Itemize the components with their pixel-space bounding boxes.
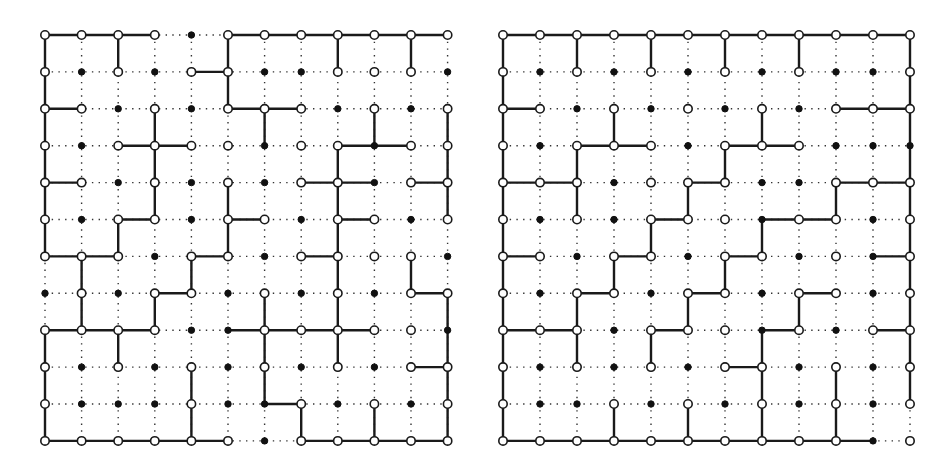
open-node-icon <box>370 68 378 76</box>
open-node-icon <box>224 68 232 76</box>
open-node-icon <box>370 400 378 408</box>
open-node-icon <box>77 437 85 445</box>
open-node-icon <box>260 105 268 113</box>
open-node-icon <box>187 289 195 297</box>
open-node-icon <box>536 326 544 334</box>
open-node-icon <box>114 437 122 445</box>
filled-node-icon <box>907 143 913 149</box>
filled-node-icon <box>152 364 158 370</box>
open-node-icon <box>721 215 729 223</box>
open-node-icon <box>187 142 195 150</box>
open-node-icon <box>41 215 49 223</box>
open-node-icon <box>77 252 85 260</box>
filled-node-icon <box>261 179 267 185</box>
open-node-icon <box>260 31 268 39</box>
filled-node-icon <box>115 290 121 296</box>
filled-node-icon <box>648 401 654 407</box>
filled-node-icon <box>225 364 231 370</box>
open-node-icon <box>906 105 914 113</box>
open-node-icon <box>224 252 232 260</box>
filled-node-icon <box>759 69 765 75</box>
open-node-icon <box>536 252 544 260</box>
open-node-icon <box>832 31 840 39</box>
open-node-icon <box>906 437 914 445</box>
open-node-icon <box>41 105 49 113</box>
open-node-icon <box>334 437 342 445</box>
filled-node-icon <box>574 401 580 407</box>
open-node-icon <box>573 31 581 39</box>
open-node-icon <box>41 326 49 334</box>
open-node-icon <box>77 178 85 186</box>
open-node-icon <box>443 437 451 445</box>
open-node-icon <box>260 215 268 223</box>
open-node-icon <box>407 178 415 186</box>
filled-node-icon <box>796 253 802 259</box>
open-node-icon <box>906 363 914 371</box>
open-node-icon <box>758 31 766 39</box>
filled-node-icon <box>261 253 267 259</box>
open-node-icon <box>684 437 692 445</box>
filled-node-icon <box>796 364 802 370</box>
open-node-icon <box>795 437 803 445</box>
open-node-icon <box>647 437 655 445</box>
open-node-icon <box>77 105 85 113</box>
open-node-icon <box>832 105 840 113</box>
filled-node-icon <box>611 364 617 370</box>
filled-node-icon <box>611 216 617 222</box>
filled-node-icon <box>833 327 839 333</box>
open-node-icon <box>758 437 766 445</box>
open-node-icon <box>407 142 415 150</box>
open-node-icon <box>536 437 544 445</box>
open-node-icon <box>41 437 49 445</box>
open-node-icon <box>758 142 766 150</box>
open-node-icon <box>41 363 49 371</box>
filled-node-icon <box>537 401 543 407</box>
open-node-icon <box>536 31 544 39</box>
open-node-icon <box>795 68 803 76</box>
filled-node-icon <box>115 106 121 112</box>
filled-node-icon <box>833 143 839 149</box>
filled-node-icon <box>537 143 543 149</box>
open-node-icon <box>77 289 85 297</box>
open-node-icon <box>721 363 729 371</box>
filled-node-icon <box>685 69 691 75</box>
open-node-icon <box>647 326 655 334</box>
open-node-icon <box>758 400 766 408</box>
filled-node-icon <box>611 327 617 333</box>
open-node-icon <box>224 178 232 186</box>
open-node-icon <box>334 363 342 371</box>
open-node-icon <box>151 142 159 150</box>
open-node-icon <box>610 31 618 39</box>
open-node-icon <box>684 215 692 223</box>
filled-node-icon <box>408 106 414 112</box>
open-node-icon <box>370 215 378 223</box>
filled-node-icon <box>759 327 765 333</box>
filled-node-icon <box>796 401 802 407</box>
filled-node-icon <box>444 327 450 333</box>
open-node-icon <box>647 31 655 39</box>
filled-node-icon <box>870 290 876 296</box>
open-node-icon <box>187 400 195 408</box>
open-node-icon <box>499 400 507 408</box>
open-node-icon <box>721 252 729 260</box>
open-node-icon <box>684 178 692 186</box>
solid-edges <box>45 35 448 441</box>
open-node-icon <box>260 289 268 297</box>
filled-node-icon <box>408 401 414 407</box>
filled-node-icon <box>78 216 84 222</box>
open-node-icon <box>41 178 49 186</box>
grid-graph-figure <box>0 0 951 473</box>
open-node-icon <box>334 142 342 150</box>
open-node-icon <box>610 400 618 408</box>
filled-node-icon <box>225 290 231 296</box>
open-node-icon <box>407 31 415 39</box>
open-node-icon <box>758 252 766 260</box>
filled-node-icon <box>188 179 194 185</box>
open-node-icon <box>832 289 840 297</box>
filled-node-icon <box>648 106 654 112</box>
filled-node-icon <box>444 253 450 259</box>
filled-node-icon <box>371 179 377 185</box>
open-node-icon <box>758 105 766 113</box>
open-node-icon <box>499 31 507 39</box>
open-node-icon <box>832 437 840 445</box>
